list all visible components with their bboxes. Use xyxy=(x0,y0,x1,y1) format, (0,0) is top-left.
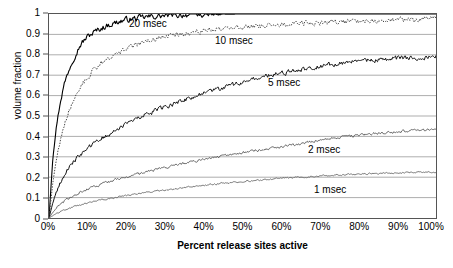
series-line xyxy=(49,16,436,218)
x-tick-label: 80% xyxy=(349,221,369,233)
x-axis: 0%10%20%30%40%50%60%70%80%90%100% xyxy=(48,221,437,237)
y-tick-label: 0.2 xyxy=(26,173,40,183)
series-annotation: 2 msec xyxy=(308,144,340,155)
chart-figure: 00.10.20.30.40.50.60.70.80.91 volume fra… xyxy=(0,0,453,268)
x-tick-label: 60% xyxy=(271,221,291,233)
x-axis-title: Percent release sites active xyxy=(48,240,437,251)
x-tick-label: 30% xyxy=(155,221,175,233)
y-axis: 00.10.20.30.40.50.60.70.80.91 xyxy=(0,13,45,219)
series-annotation: 20 msec xyxy=(129,18,167,29)
y-tick-label: 0.4 xyxy=(26,132,40,142)
y-tick-label: 0.5 xyxy=(26,111,40,121)
series-line xyxy=(49,55,436,218)
series-annotation: 5 msec xyxy=(268,77,300,88)
series-line xyxy=(49,129,436,218)
y-tick-label: 0.8 xyxy=(26,49,40,59)
series-annotation: 1 msec xyxy=(314,184,346,195)
series-annotation: 10 msec xyxy=(215,35,253,46)
x-tick-label: 20% xyxy=(116,221,136,233)
x-tick-label: 90% xyxy=(388,221,408,233)
y-tick-label: 1 xyxy=(34,8,40,18)
y-tick-label: 0.7 xyxy=(26,70,40,80)
x-tick-label: 100% xyxy=(418,221,444,233)
y-tick-label: 0.6 xyxy=(26,90,40,100)
y-axis-title: volume fraction xyxy=(12,31,23,141)
y-tick-label: 0.1 xyxy=(26,193,40,203)
series-line xyxy=(49,171,436,218)
x-tick-label: 50% xyxy=(232,221,252,233)
y-tick-label: 0 xyxy=(34,214,40,224)
y-tick-label: 0.3 xyxy=(26,152,40,162)
x-tick-label: 70% xyxy=(310,221,330,233)
x-tick-label: 0% xyxy=(41,221,55,233)
x-tick-label: 40% xyxy=(194,221,214,233)
x-tick-label: 10% xyxy=(77,221,97,233)
y-tick-label: 0.9 xyxy=(26,29,40,39)
